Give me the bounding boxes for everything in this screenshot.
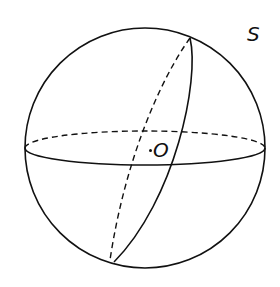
- sphere-outline: [25, 28, 265, 268]
- diagram-canvas: O S: [0, 0, 280, 287]
- equator-back: [25, 131, 265, 148]
- center-label: O: [153, 138, 169, 162]
- center-point: [149, 149, 152, 152]
- sphere-label: S: [247, 22, 260, 46]
- sphere-diagram: [0, 0, 280, 287]
- equator-front: [25, 148, 265, 165]
